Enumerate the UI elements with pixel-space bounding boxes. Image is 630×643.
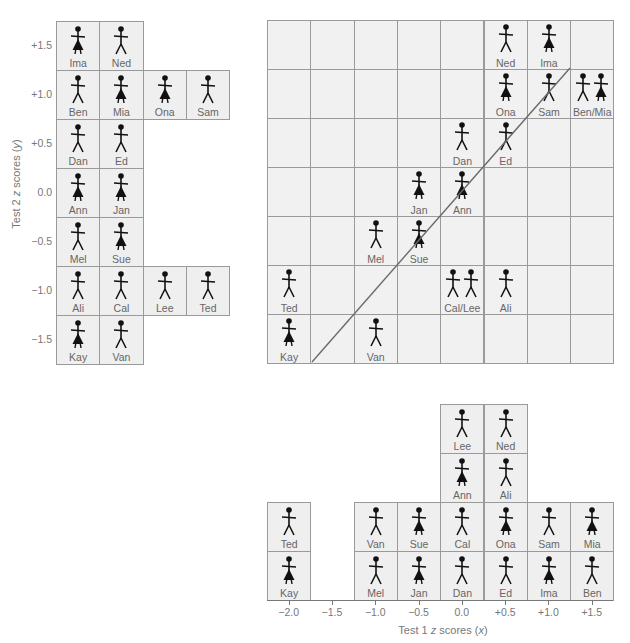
figure — [70, 173, 86, 207]
scatter-grid-cell — [484, 216, 528, 266]
female-figure-icon — [411, 507, 427, 537]
bottom-histogram-cell: Ned — [484, 404, 528, 454]
person-name-label: Sam — [187, 106, 229, 118]
male-figure-icon — [498, 122, 514, 152]
scatter-grid-cell — [310, 167, 354, 217]
figure — [454, 409, 470, 443]
figure — [281, 318, 297, 348]
female-figure-icon — [454, 171, 470, 201]
female-figure-icon — [454, 458, 470, 488]
figure — [70, 26, 86, 60]
left-histogram-cell: Lee — [143, 266, 187, 316]
male-figure-icon — [463, 269, 479, 299]
y-axis-title: Test 2 z scores (y) — [10, 126, 22, 242]
scatter-point: Ed — [484, 118, 528, 168]
person-name-label: Sue — [391, 253, 447, 265]
person-name-label: Van — [355, 538, 397, 550]
figure — [541, 24, 557, 54]
scatter-grid-cell — [267, 167, 311, 217]
male-figure-icon — [70, 222, 86, 252]
person-name-label: Dan — [57, 155, 99, 167]
male-figure-icon — [70, 271, 86, 301]
figure — [70, 320, 86, 354]
person-name-label: Van — [348, 351, 404, 363]
scatter-grid-cell — [310, 118, 354, 168]
left-histogram-cell: Jan — [99, 168, 143, 218]
person-name-label: Jan — [100, 204, 142, 216]
left-histogram-cell: Dan — [56, 119, 100, 169]
male-figure-icon — [70, 124, 86, 154]
female-figure-icon — [498, 73, 514, 103]
person-name-label: Ed — [485, 587, 527, 599]
figure — [113, 173, 129, 207]
left-histogram-cell: Kay — [56, 315, 100, 365]
scatter-point: Ali — [484, 265, 528, 315]
male-figure-icon — [281, 269, 297, 299]
bottom-histogram-cell: Sue — [397, 502, 441, 552]
female-figure-icon — [113, 222, 129, 252]
figure — [498, 73, 514, 103]
person-name-label: Ali — [485, 489, 527, 501]
figure — [498, 507, 514, 541]
figure — [498, 409, 514, 443]
figure — [70, 75, 86, 109]
female-figure-icon — [411, 220, 427, 250]
x-axis-line — [267, 600, 613, 601]
person-name-label: Ben — [571, 587, 613, 599]
person-name-label: Dan — [441, 587, 483, 599]
male-figure-icon — [541, 507, 557, 537]
x-tick-label: −1.5 — [312, 606, 352, 618]
bottom-histogram-cell: Ona — [484, 502, 528, 552]
scatter-grid-cell — [267, 118, 311, 168]
scatter-grid-cell — [397, 69, 441, 119]
figure — [368, 220, 384, 250]
person-name-label: Ann — [441, 489, 483, 501]
person-name-label: Cal — [441, 538, 483, 550]
figure — [281, 269, 297, 299]
scatter-grid-cell — [354, 118, 398, 168]
person-name-label: Ben — [57, 106, 99, 118]
left-histogram-cell: Ned — [99, 21, 143, 71]
y-tick-label: +1.5 — [24, 39, 52, 51]
person-name-label: Mel — [57, 253, 99, 265]
female-figure-icon — [541, 556, 557, 586]
scatter-point: Ted — [267, 265, 311, 315]
x-tick-mark — [548, 601, 549, 605]
male-figure-icon — [200, 271, 216, 301]
scatter-point: Ima — [527, 20, 571, 70]
figure — [411, 556, 427, 590]
x-axis-title: Test 1 z scores (x) — [388, 624, 498, 636]
scatter-point: Ben/Mia — [570, 69, 614, 119]
left-histogram-cell: Sue — [99, 217, 143, 267]
x-title-text: Test 1 — [398, 624, 430, 636]
scatter-point: Kay — [267, 314, 311, 364]
person-name-label: Ima — [528, 587, 570, 599]
person-name-label: Ann — [57, 204, 99, 216]
left-histogram-cell: Ann — [56, 168, 100, 218]
bottom-histogram-cell: Ted — [267, 502, 311, 552]
scatter-grid-cell — [440, 314, 484, 364]
person-name-label: Ima — [57, 57, 99, 69]
left-histogram-cell: Mel — [56, 217, 100, 267]
y-title-end: ) — [10, 139, 22, 143]
male-figure-icon — [454, 507, 470, 537]
y-tick-label: −0.5 — [24, 235, 52, 247]
bottom-histogram-cell: Kay — [267, 551, 311, 601]
female-figure-icon — [281, 318, 297, 348]
female-figure-icon — [70, 26, 86, 56]
x-tick-label: −0.5 — [399, 606, 439, 618]
person-name-label: Lee — [144, 302, 186, 314]
bottom-histogram-cell: Ann — [440, 453, 484, 503]
x-tick-label: 0.0 — [442, 606, 482, 618]
x-tick-label: +0.5 — [485, 606, 525, 618]
person-name-label: Ted — [187, 302, 229, 314]
scatter-grid-cell — [570, 167, 614, 217]
left-histogram-cell: Cal — [99, 266, 143, 316]
person-name-label: Mia — [100, 106, 142, 118]
x-title-end: ) — [484, 624, 488, 636]
x-tick-mark — [462, 601, 463, 605]
figure — [584, 507, 600, 541]
bottom-histogram-cell: Ima — [527, 551, 571, 601]
y-tick-label: −1.0 — [24, 284, 52, 296]
figure — [368, 556, 384, 590]
